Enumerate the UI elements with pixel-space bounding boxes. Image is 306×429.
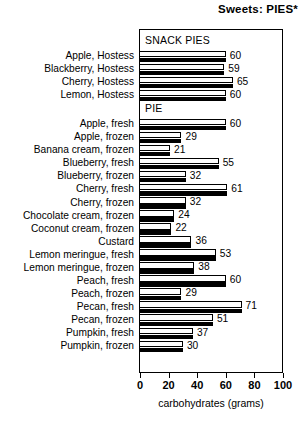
bar-value-label: 61 [231,183,242,195]
bar-shadow [140,335,193,339]
bar-value-label: 60 [230,89,241,101]
bar-category-label: Pumpkin, frozen [0,340,134,352]
bar-row: Cherry, fresh61 [0,183,306,196]
bar [140,249,216,261]
bar [140,288,181,300]
group-header-pie: PIE [145,102,163,114]
bar-shadow [140,165,219,169]
bar-category-label: Coconut cream, frozen [0,223,134,235]
bar-value-label: 32 [190,170,201,182]
bar-body [140,64,224,71]
bar-shadow [140,152,170,156]
bar [140,119,226,131]
bar-shadow [140,256,216,260]
bar-row: Apple, frozen29 [0,131,306,144]
bar-shadow [140,126,226,130]
bar-body [140,145,170,152]
bar [140,51,226,63]
x-axis-line [139,372,283,373]
bar-category-label: Banana cream, frozen [0,144,134,156]
bar-category-label: Chocolate cream, frozen [0,210,134,222]
chart-title: Sweets: PIES* [0,3,298,15]
bar-row: Custard36 [0,236,306,249]
bar-value-label: 38 [198,261,209,273]
bar-shadow [140,71,224,75]
bar-row: Blueberry, frozen32 [0,170,306,183]
bar [140,314,213,326]
bar-body [140,314,213,321]
bar-category-label: Lemon meringue, fresh [0,249,134,261]
bar-body [140,328,193,335]
x-axis-tick-label: 100 [274,379,292,391]
bar-category-label: Apple, frozen [0,131,134,143]
bar-category-label: Blueberry, frozen [0,170,134,182]
bar-value-label: 24 [178,209,189,221]
x-axis-title: carbohydrates (grams) [139,397,283,409]
bar-value-label: 36 [195,235,206,247]
bar-category-label: Custard [0,236,134,248]
bar-shadow [140,269,194,273]
bar [140,262,194,274]
bar-shadow [140,139,181,143]
bar-shadow [140,84,233,88]
x-axis-tick [197,373,198,378]
bar-body [140,275,226,282]
bar-category-label: Cherry, Hostess [0,76,134,88]
bar-body [140,77,233,84]
bar [140,341,183,353]
bar [140,132,181,144]
bar [140,301,242,313]
bar-row: Cherry, frozen32 [0,197,306,210]
bar [140,158,219,170]
bar-body [140,119,226,126]
bar-body [140,132,181,139]
bar-category-label: Blackberry, Hostess [0,63,134,75]
bar-category-label: Cherry, fresh [0,183,134,195]
bar [140,223,171,235]
bar-category-label: Blueberry, fresh [0,157,134,169]
bar-body [140,288,181,295]
bar-shadow [140,282,226,286]
bar-shadow [140,58,226,62]
bar-body [140,90,226,97]
bar-row: Apple, Hostess60 [0,50,306,63]
x-axis-tick-label: 20 [162,379,174,391]
bar-value-label: 32 [190,196,201,208]
bar-body [140,249,216,256]
bar-row: Pumpkin, fresh37 [0,327,306,340]
bar-body [140,184,227,191]
bar-shadow [140,204,186,208]
bar-value-label: 60 [230,118,241,130]
bar [140,275,226,287]
bar-row: Chocolate cream, frozen24 [0,210,306,223]
bar [140,77,233,89]
bar-value-label: 29 [185,131,196,143]
bar [140,236,191,248]
bar-shadow [140,348,183,352]
bar-shadow [140,296,181,300]
bar-body [140,158,219,165]
bar-value-label: 71 [246,300,257,312]
bar-value-label: 30 [187,340,198,352]
bar-category-label: Lemon meringue, frozen [0,262,134,274]
bar-row: Cherry, Hostess65 [0,76,306,89]
bar-category-label: Pumpkin, fresh [0,327,134,339]
bar-row: Pumpkin, frozen30 [0,340,306,353]
bar-body [140,262,194,269]
bar-row: Blackberry, Hostess59 [0,63,306,76]
bar-value-label: 21 [174,144,185,156]
bar-value-label: 60 [230,274,241,286]
bar-body [140,236,191,243]
bar-category-label: Peach, frozen [0,288,134,300]
x-axis-tick-label: 80 [248,379,260,391]
bar-category-label: Cherry, frozen [0,197,134,209]
bar-row: Lemon meringue, fresh53 [0,249,306,262]
bar-body [140,171,186,178]
bar-value-label: 53 [220,248,231,260]
bar-value-label: 60 [230,50,241,62]
bar-row: Lemon meringue, frozen38 [0,262,306,275]
bar [140,64,224,76]
bar-row: Coconut cream, frozen22 [0,223,306,236]
bar [140,90,226,102]
bar-value-label: 51 [217,313,228,325]
